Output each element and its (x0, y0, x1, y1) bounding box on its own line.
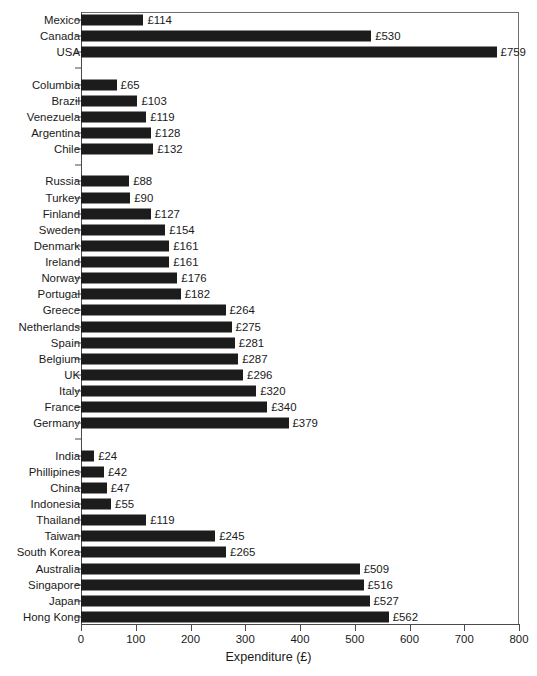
bar-value-label: £65 (121, 79, 140, 91)
x-axis-tick (300, 625, 301, 631)
bar-row: Italy£320 (0, 383, 537, 399)
bar-row: South Korea£265 (0, 544, 537, 560)
bar-row: Phillipines£42 (0, 464, 537, 480)
bar (81, 208, 151, 219)
bar-value-label: £154 (169, 224, 194, 236)
bar (81, 611, 389, 622)
bar-value-label: £24 (98, 450, 117, 462)
x-axis-tick (81, 625, 82, 631)
bar-row: Canada£530 (0, 28, 537, 44)
x-axis-tick-label: 300 (236, 633, 255, 646)
bar (81, 563, 360, 574)
bar-value-label: £287 (242, 353, 267, 365)
y-axis-tick (75, 68, 81, 69)
bar (81, 257, 169, 268)
bar (81, 111, 146, 122)
category-label: Portugal (38, 288, 80, 300)
category-label: Phillipines (29, 466, 80, 478)
x-axis-tick-label: 500 (345, 633, 364, 646)
bar-row: Columbia£65 (0, 77, 537, 93)
bar-row: Portugal£182 (0, 286, 537, 302)
bar-value-label: £562 (393, 611, 418, 623)
bar-value-label: £128 (155, 127, 180, 139)
bar (81, 450, 94, 461)
bar-value-label: £47 (111, 482, 130, 494)
category-label: Netherlands (19, 321, 80, 333)
bar-row: Australia£509 (0, 560, 537, 576)
category-label: Denmark (34, 240, 80, 252)
bar-row: France£340 (0, 399, 537, 415)
x-axis-tick-label: 100 (126, 633, 145, 646)
bar-row: Hong Kong£562 (0, 609, 537, 625)
bar (81, 337, 235, 348)
bar-value-label: £340 (271, 401, 296, 413)
category-label: Indonesia (31, 498, 80, 510)
category-label: South Korea (17, 546, 80, 558)
bar-row: Indonesia£55 (0, 496, 537, 512)
bar-row: Chile£132 (0, 141, 537, 157)
bar (81, 386, 256, 397)
bar-rows-container: Mexico£114Canada£530USA£759Columbia£65Br… (0, 12, 537, 625)
bar-row: Denmark£161 (0, 238, 537, 254)
category-label: Taiwan (45, 530, 80, 542)
bar-row: India£24 (0, 448, 537, 464)
bar-row: Spain£281 (0, 335, 537, 351)
bar-row: Mexico£114 (0, 12, 537, 28)
bar-row: Japan£527 (0, 593, 537, 609)
bar-value-label: £90 (134, 192, 153, 204)
bar-value-label: £527 (374, 595, 399, 607)
category-label: Venezuela (27, 111, 80, 123)
bar (81, 418, 289, 429)
bar (81, 402, 267, 413)
category-label: Italy (59, 385, 80, 397)
category-label: Finland (43, 208, 80, 220)
category-label: Argentina (31, 127, 80, 139)
group-spacer-row (0, 157, 537, 173)
group-spacer-row (0, 431, 537, 447)
bar-row: Singapore£516 (0, 577, 537, 593)
bar-value-label: £281 (239, 337, 264, 349)
x-axis-tick-label: 600 (400, 633, 419, 646)
bar (81, 305, 226, 316)
bar-value-label: £176 (181, 272, 206, 284)
x-axis-tick (410, 625, 411, 631)
bar-row: China£47 (0, 480, 537, 496)
bar-row: Russia£88 (0, 173, 537, 189)
bar-value-label: £379 (293, 417, 318, 429)
bar-row: Greece£264 (0, 302, 537, 318)
category-label: Belgium (39, 353, 80, 365)
category-label: Ireland (45, 256, 80, 268)
category-label: China (50, 482, 80, 494)
bar-value-label: £119 (150, 514, 175, 526)
bar (81, 224, 165, 235)
bar-value-label: £296 (247, 369, 272, 381)
bar-row: Finland£127 (0, 206, 537, 222)
category-label: Greece (43, 304, 80, 316)
bar-row: Thailand£119 (0, 512, 537, 528)
category-label: Thailand (36, 514, 80, 526)
x-axis-tick (519, 625, 520, 631)
bar-row: USA£759 (0, 44, 537, 60)
bar-value-label: £127 (155, 208, 180, 220)
category-label: Russia (45, 175, 80, 187)
bar (81, 15, 143, 26)
bar-value-label: £245 (219, 530, 244, 542)
bar (81, 95, 137, 106)
bar-value-label: £119 (150, 111, 175, 123)
category-label: USA (57, 46, 80, 58)
bar-row: Sweden£154 (0, 222, 537, 238)
bar-value-label: £55 (115, 498, 134, 510)
bar (81, 369, 243, 380)
category-label: Chile (54, 143, 80, 155)
bar-chart: Mexico£114Canada£530USA£759Columbia£65Br… (0, 0, 537, 676)
y-axis-tick (75, 165, 81, 166)
bar-value-label: £42 (108, 466, 127, 478)
category-label: Japan (49, 595, 80, 607)
category-label: Spain (51, 337, 80, 349)
x-axis-tick-label: 200 (181, 633, 200, 646)
bar (81, 127, 151, 138)
bar (81, 289, 181, 300)
bar (81, 466, 104, 477)
category-label: Brazil (52, 95, 80, 107)
bar-value-label: £161 (173, 256, 198, 268)
